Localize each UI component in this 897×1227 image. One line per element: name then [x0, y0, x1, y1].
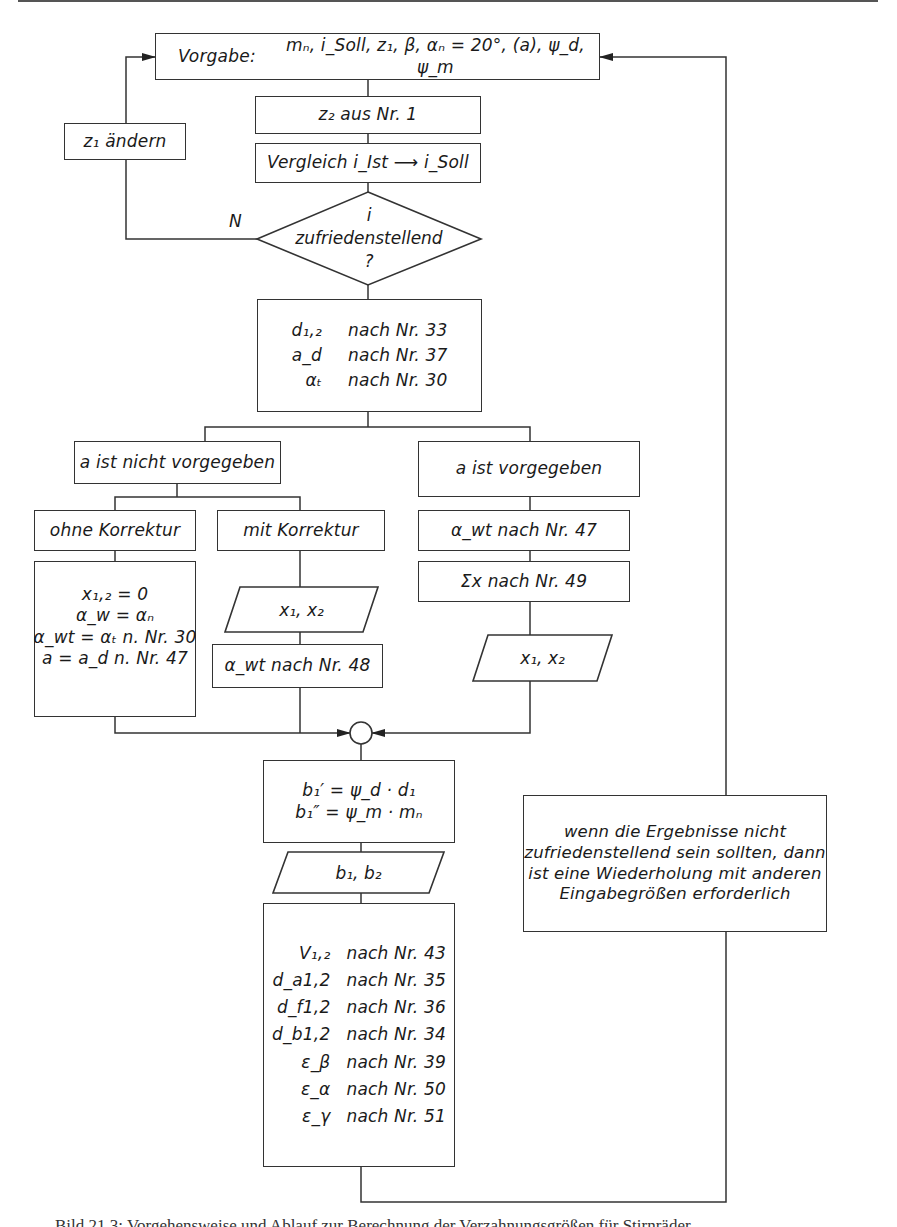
junction-circle	[350, 722, 372, 744]
with-correction-calc-box: α_wt nach Nr. 48	[212, 644, 383, 688]
retry-note-box: wenn die Ergebnisse nicht zufriedenstell…	[523, 795, 827, 932]
decision-text: i zufriedenstellend ?	[257, 192, 481, 285]
given-output-text: x₁, x₂	[473, 635, 612, 681]
decision-no-label: N	[229, 211, 242, 231]
given-calc-2-box: Σx nach Nr. 49	[418, 561, 630, 602]
branch-given-box: a ist vorgegeben	[418, 441, 640, 497]
figure-caption: Bild 21.3: Vorgehensweise und Ablauf zur…	[55, 1213, 855, 1227]
width-output-text: b₁, b₂	[273, 852, 444, 893]
start-input-box: Vorgabe: mₙ, i_Soll, z₁, β, αₙ = 20°, (a…	[155, 33, 600, 80]
z2-step-box: z₂ aus Nr. 1	[255, 96, 481, 134]
start-label: Vorgabe:	[178, 46, 256, 67]
start-params: mₙ, i_Soll, z₁, β, αₙ = 20°, (a), ψ_d, ψ…	[272, 35, 599, 78]
without-correction-calc-box: x₁,₂ = 0 α_w = αₙ α_wt = αₜ n. Nr. 30 a …	[34, 561, 196, 717]
basic-calc-box: d₁,₂ nach Nr. 33 a_d nach Nr. 37 αₜ nach…	[257, 299, 482, 412]
given-calc-1-box: α_wt nach Nr. 47	[418, 510, 630, 551]
width-calc-box: b₁′ = ψ_d · d₁ b₁″ = ψ_m · mₙ	[263, 760, 455, 843]
with-correction-input-text: x₁, x₂	[225, 587, 378, 632]
without-correction-box: ohne Korrektur	[34, 510, 196, 551]
results-box: V₁,₂ nach Nr. 43 d_a1,2 nach Nr. 35 d_f1…	[263, 903, 455, 1167]
branch-not-given-box: a ist nicht vorgegeben	[74, 441, 281, 484]
z1-change-box: z₁ ändern	[64, 123, 186, 160]
compare-step-box: Vergleich i_Ist ⟶ i_Soll	[255, 143, 481, 183]
with-correction-box: mit Korrektur	[217, 510, 385, 551]
